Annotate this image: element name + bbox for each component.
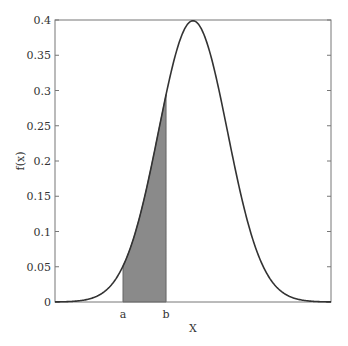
y-tick-label: 0.4 [34, 14, 52, 27]
y-tick-label: 0.1 [34, 226, 52, 239]
normal-pdf-chart: 00.050.10.150.20.250.30.350.4 a b X f(x) [0, 0, 348, 346]
x-tick-a: a [120, 308, 127, 321]
y-tick-label: 0.15 [27, 190, 52, 203]
y-tick-label: 0.35 [27, 49, 52, 62]
y-axis-label: f(x) [14, 152, 27, 171]
y-tick-label: 0.25 [27, 120, 52, 133]
y-tick-label: 0 [44, 296, 51, 309]
x-tick-b: b [163, 308, 170, 321]
plot-frame [55, 20, 331, 302]
pdf-curve [55, 21, 331, 302]
y-tick-label: 0.3 [34, 85, 52, 98]
x-axis-label: X [189, 322, 197, 335]
y-tick-label: 0.05 [27, 261, 52, 274]
y-axis-ticks: 00.050.10.150.20.250.30.350.4 [27, 14, 332, 309]
y-tick-label: 0.2 [34, 155, 52, 168]
